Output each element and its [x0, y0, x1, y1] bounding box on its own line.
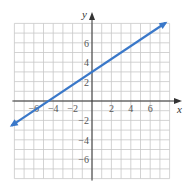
y-tick-label: −6 [78, 154, 89, 165]
y-tick-label: 6 [84, 38, 89, 49]
y-tick-label: −4 [78, 135, 89, 146]
x-tick-label: −4 [48, 103, 59, 114]
y-axis-label: y [81, 8, 87, 20]
y-tick-label: 2 [84, 77, 89, 88]
y-axis-arrow-icon [89, 12, 95, 20]
x-tick-label: 6 [148, 103, 153, 114]
x-tick-label: 2 [109, 103, 114, 114]
y-tick-label: 4 [84, 57, 89, 68]
x-tick-label: −2 [67, 103, 78, 114]
x-axis-label: x [176, 103, 182, 115]
x-tick-label: 4 [128, 103, 133, 114]
y-tick-label: −2 [78, 115, 89, 126]
coordinate-plane: −6−4−2246−6−4−2246 x y [0, 0, 184, 186]
axes [12, 12, 182, 181]
